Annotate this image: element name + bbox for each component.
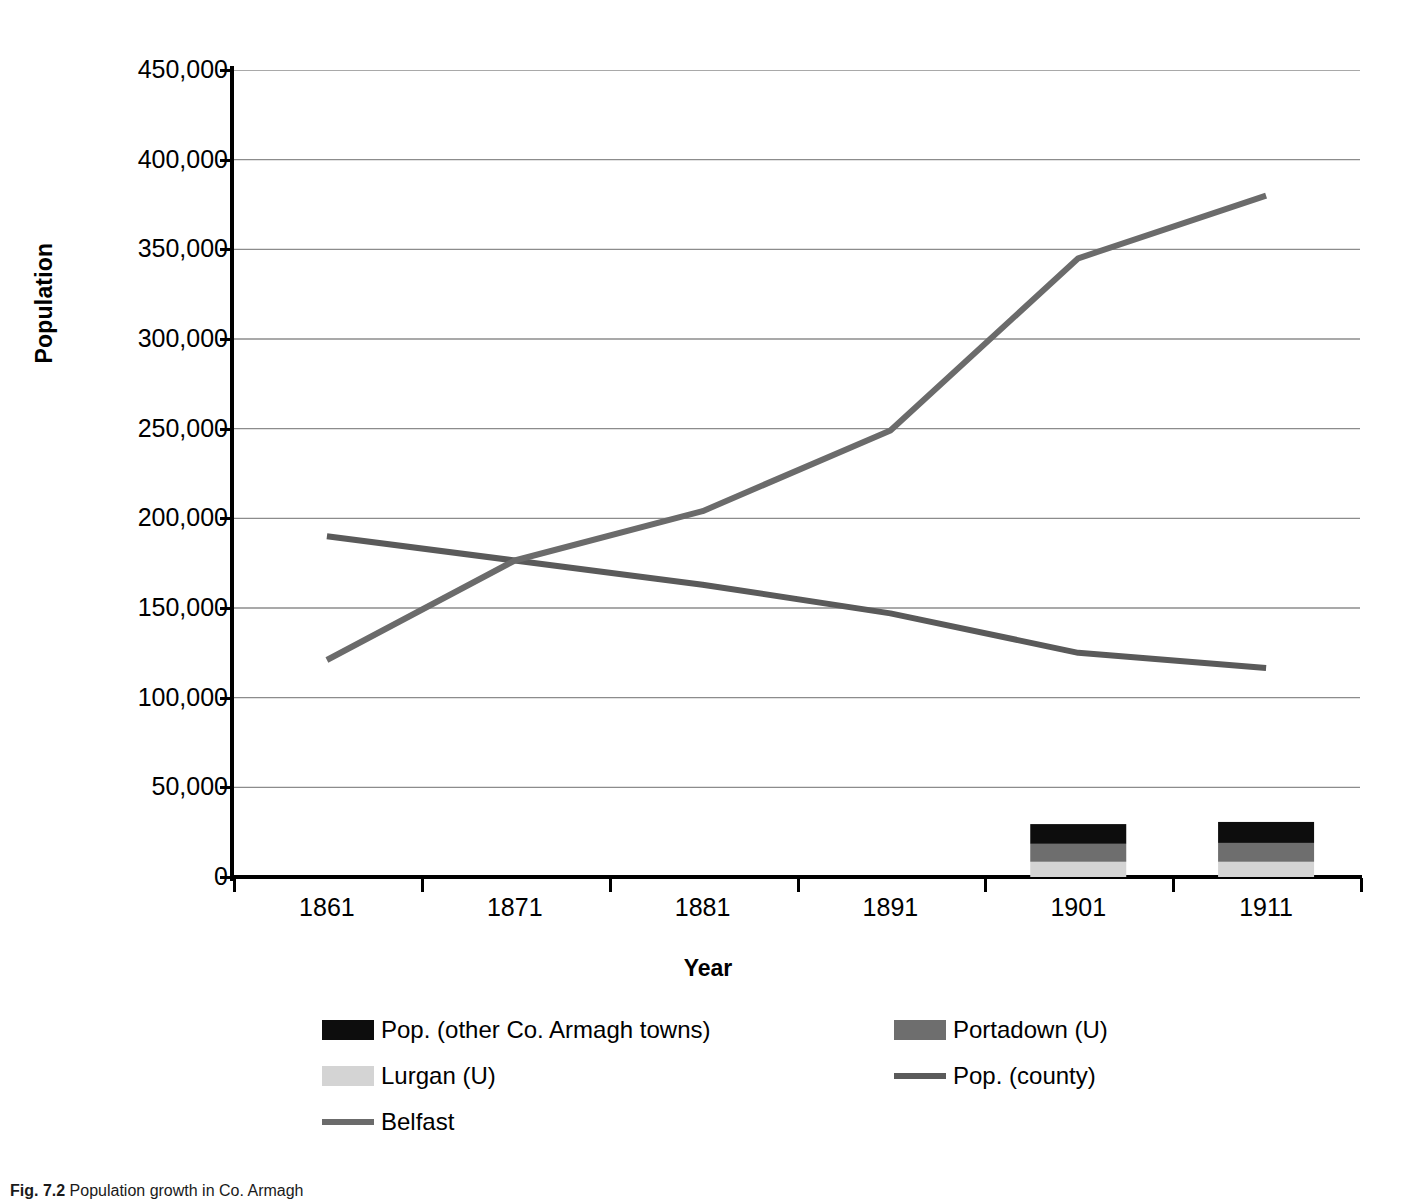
legend-label: Pop. (county): [953, 1064, 1096, 1088]
gridlines: [233, 70, 1360, 787]
x-tick-mark: [1360, 878, 1363, 892]
legend-swatch-box-icon: [322, 1066, 374, 1086]
x-tick-mark: [233, 878, 236, 892]
x-tick-label: 1861: [247, 893, 407, 922]
y-tick-mark: [220, 697, 234, 700]
y-tick-mark: [220, 517, 234, 520]
x-tick-label: 1871: [435, 893, 595, 922]
population-chart-figure: Population 050,000100,000150,000200,0002…: [0, 0, 1416, 1200]
plot-svg: [233, 70, 1360, 877]
y-tick-label: 200,000: [68, 505, 228, 530]
x-tick-mark: [797, 878, 800, 892]
legend-item: Pop. (other Co. Armagh towns): [322, 1018, 710, 1042]
x-tick-mark: [609, 878, 612, 892]
y-tick-label: 0: [68, 864, 228, 889]
bar-segment: [1218, 843, 1314, 862]
bar-segment: [1030, 844, 1126, 862]
x-axis-title: Year: [0, 955, 1416, 982]
y-tick-label: 400,000: [68, 147, 228, 172]
stacked-bars: [1030, 822, 1314, 877]
caption-number: Fig. 7.2: [10, 1182, 65, 1199]
bar-segment: [1218, 862, 1314, 877]
y-tick-mark: [220, 607, 234, 610]
y-tick-mark: [220, 248, 234, 251]
legend-label: Belfast: [381, 1110, 454, 1134]
legend-swatch-line-icon: [894, 1073, 946, 1079]
y-tick-label: 300,000: [68, 326, 228, 351]
legend-item: Lurgan (U): [322, 1064, 496, 1088]
y-tick-mark: [220, 159, 234, 162]
figure-caption: Fig. 7.2 Population growth in Co. Armagh: [10, 1182, 303, 1200]
legend-item: Belfast: [322, 1110, 454, 1134]
x-tick-label: 1911: [1186, 893, 1346, 922]
y-tick-mark: [220, 338, 234, 341]
y-tick-label: 450,000: [68, 57, 228, 82]
x-tick-mark: [1172, 878, 1175, 892]
y-tick-label: 350,000: [68, 236, 228, 261]
y-tick-label: 150,000: [68, 595, 228, 620]
chart-legend: Pop. (other Co. Armagh towns)Portadown (…: [322, 1018, 1322, 1148]
y-tick-mark: [220, 786, 234, 789]
x-tick-label: 1881: [623, 893, 783, 922]
line-series-path: [327, 536, 1266, 668]
x-tick-mark: [984, 878, 987, 892]
y-tick-label: 50,000: [68, 774, 228, 799]
y-tick-label: 100,000: [68, 685, 228, 710]
caption-text: Population growth in Co. Armagh: [65, 1182, 303, 1199]
legend-label: Pop. (other Co. Armagh towns): [381, 1018, 710, 1042]
line-series-path: [327, 196, 1266, 660]
x-axis-tick-labels: 186118711881189119011911: [233, 893, 1360, 933]
y-axis-tick-labels: 050,000100,000150,000200,000250,000300,0…: [60, 0, 228, 900]
line-series: [327, 196, 1266, 669]
legend-label: Portadown (U): [953, 1018, 1108, 1042]
plot-area: [233, 70, 1360, 877]
y-tick-mark: [220, 69, 234, 72]
legend-swatch-line-icon: [322, 1119, 374, 1125]
y-tick-mark: [220, 428, 234, 431]
bar-segment: [1030, 824, 1126, 844]
y-tick-mark: [220, 876, 234, 879]
y-tick-label: 250,000: [68, 416, 228, 441]
legend-swatch-box-icon: [322, 1020, 374, 1040]
legend-swatch-box-icon: [894, 1020, 946, 1040]
x-tick-mark: [421, 878, 424, 892]
bar-segment: [1030, 862, 1126, 877]
y-axis-title: Population: [31, 324, 58, 364]
legend-item: Pop. (county): [894, 1064, 1096, 1088]
x-tick-label: 1901: [998, 893, 1158, 922]
legend-label: Lurgan (U): [381, 1064, 496, 1088]
x-tick-label: 1891: [810, 893, 970, 922]
bar-segment: [1218, 822, 1314, 843]
legend-item: Portadown (U): [894, 1018, 1108, 1042]
